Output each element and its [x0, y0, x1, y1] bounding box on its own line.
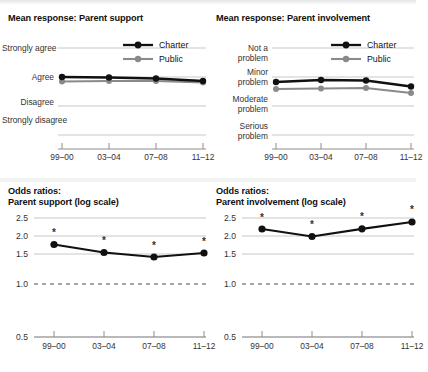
- panel-mean-response-parent-involvement: Mean response: Parent involvement Not ap…: [208, 0, 416, 178]
- xtick-label-0: 99–00: [34, 342, 74, 352]
- ytick-label-disagree: Disagree: [2, 98, 54, 108]
- legend-label-charter: Charter: [367, 40, 396, 50]
- panel-odds-ratios-parent-involvement: Odds ratios: Parent involvement (log sca…: [208, 178, 416, 372]
- ytick-label-2-5: 2.5: [6, 214, 28, 224]
- legend-label-public: Public: [159, 54, 183, 64]
- ytick-label-1-5: 1.5: [214, 250, 236, 260]
- xtick-label-0: 99–00: [242, 342, 282, 352]
- legend-swatch-charter: [123, 42, 153, 49]
- panel-title: Mean response: Parent involvement: [216, 13, 370, 24]
- xtick-label-1: 03–04: [89, 153, 129, 163]
- significance-marker-1: *: [304, 220, 320, 230]
- panel-title: Mean response: Parent support: [8, 13, 143, 24]
- x-axis: [272, 143, 414, 149]
- legend-label-public: Public: [367, 54, 391, 64]
- xtick-label-2: 07–08: [134, 342, 174, 352]
- ytick-label-strongly-agree: Strongly agree: [2, 44, 54, 54]
- xtick-label-1: 03–04: [292, 342, 332, 352]
- ytick-label-moderate-problem: Moderateproblem: [208, 95, 268, 114]
- panel-mean-response-parent-support: Mean response: Parent support Strongly a…: [0, 0, 208, 178]
- legend-label-charter: Charter: [159, 40, 188, 50]
- significance-marker-0: *: [254, 213, 270, 223]
- plot-area: [242, 206, 414, 346]
- series-odds-ratio: [258, 218, 415, 240]
- xtick-label-2: 07–08: [346, 153, 386, 163]
- ytick-label-0-5: 0.5: [214, 333, 236, 343]
- xtick-label-2: 07–08: [136, 153, 176, 163]
- xtick-label-1: 03–04: [301, 153, 341, 163]
- significance-marker-3: *: [404, 205, 420, 215]
- series-odds-ratio: [50, 241, 207, 261]
- series-public: [273, 85, 414, 96]
- ytick-label-1-0: 1.0: [214, 280, 236, 290]
- gridlines: [242, 218, 414, 337]
- legend: [330, 39, 364, 67]
- plot-area: [34, 206, 206, 346]
- legend-swatch-charter: [331, 42, 361, 49]
- ytick-label-1-5: 1.5: [6, 250, 28, 260]
- ytick-label-minor-problem: Minorproblem: [208, 68, 268, 87]
- ytick-label-2-0: 2.0: [6, 232, 28, 242]
- legend: [122, 39, 156, 67]
- legend-swatch-public: [123, 56, 153, 62]
- xtick-label-0: 99–00: [256, 153, 296, 163]
- ytick-label-2-5: 2.5: [214, 214, 236, 224]
- ytick-label-0-5: 0.5: [6, 333, 28, 343]
- ytick-label-strongly-disagree: Strongly disagree: [2, 116, 54, 126]
- significance-marker-0: *: [46, 228, 62, 238]
- ytick-label-serious-problem: Seriousproblem: [208, 122, 268, 141]
- panel-title-line1: Odds ratios:: [216, 186, 269, 198]
- ytick-label-2-0: 2.0: [214, 232, 236, 242]
- xtick-label-2: 07–08: [342, 342, 382, 352]
- xtick-label-0: 99–00: [42, 153, 82, 163]
- panel-title-line1: Odds ratios:: [8, 186, 61, 198]
- x-axis: [58, 143, 206, 149]
- xtick-label-3: 11–12: [391, 153, 428, 163]
- legend-swatch-public: [331, 56, 361, 62]
- significance-marker-2: *: [354, 212, 370, 222]
- xtick-label-3: 11–12: [392, 342, 428, 352]
- x-axis: [242, 331, 414, 337]
- x-axis: [34, 331, 206, 337]
- ytick-label-1-0: 1.0: [6, 280, 28, 290]
- significance-marker-1: *: [96, 236, 112, 246]
- panel-odds-ratios-parent-support: Odds ratios: Parent support (log scale) …: [0, 178, 208, 372]
- significance-marker-2: *: [146, 241, 162, 251]
- ytick-label-not-a-problem: Not aproblem: [208, 44, 268, 63]
- xtick-label-1: 03–04: [84, 342, 124, 352]
- ytick-label-agree: Agree: [2, 73, 54, 83]
